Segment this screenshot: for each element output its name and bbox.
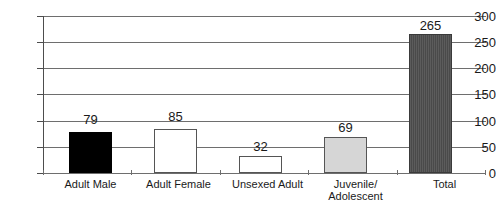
bar-value-unsexed-adult: 32 bbox=[239, 140, 282, 153]
x-tick-mark-2 bbox=[220, 170, 221, 175]
bar-chart: 300 250 200 150 100 50 0 79 85 32 69 265… bbox=[0, 0, 496, 215]
gridline-300 bbox=[43, 16, 486, 17]
x-tick-mark-3 bbox=[308, 170, 309, 175]
y-tick-mark-250 bbox=[37, 42, 43, 43]
bar-adult-female bbox=[154, 129, 197, 173]
bar-value-juvenile-adolescent: 69 bbox=[324, 121, 367, 134]
y-tick-mark-300 bbox=[37, 16, 43, 17]
x-tick-mark-1 bbox=[131, 170, 132, 175]
x-tick-mark-0 bbox=[43, 170, 44, 175]
bar-value-adult-male: 79 bbox=[69, 113, 112, 126]
y-tick-mark-50 bbox=[37, 147, 43, 148]
y-tick-label-150: 150 bbox=[462, 88, 496, 101]
bar-value-adult-female: 85 bbox=[154, 110, 197, 123]
x-category-label-juvenile-adolescent: Juvenile/ Adolescent bbox=[311, 178, 400, 202]
y-tick-label-300: 300 bbox=[462, 10, 496, 23]
bar-adult-male bbox=[69, 132, 112, 173]
x-category-label-total: Total bbox=[400, 178, 489, 190]
x-axis-line bbox=[37, 173, 486, 174]
y-tick-label-100: 100 bbox=[462, 115, 496, 128]
x-category-label-adult-male: Adult Male bbox=[46, 178, 135, 190]
x-tick-mark-5 bbox=[485, 170, 486, 175]
y-tick-label-200: 200 bbox=[462, 62, 496, 75]
y-tick-mark-100 bbox=[37, 121, 43, 122]
bar-value-total: 265 bbox=[409, 19, 452, 32]
y-tick-mark-200 bbox=[37, 68, 43, 69]
y-tick-label-250: 250 bbox=[462, 36, 496, 49]
y-tick-mark-150 bbox=[37, 94, 43, 95]
bar-unsexed-adult bbox=[239, 156, 282, 173]
y-axis-line bbox=[43, 16, 44, 174]
x-category-label-adult-female: Adult Female bbox=[134, 178, 223, 190]
y-tick-label-50: 50 bbox=[462, 141, 496, 154]
bar-total bbox=[409, 34, 452, 173]
x-category-label-unsexed-adult: Unsexed Adult bbox=[223, 178, 312, 190]
x-tick-mark-4 bbox=[397, 170, 398, 175]
bar-juvenile-adolescent bbox=[324, 137, 367, 173]
